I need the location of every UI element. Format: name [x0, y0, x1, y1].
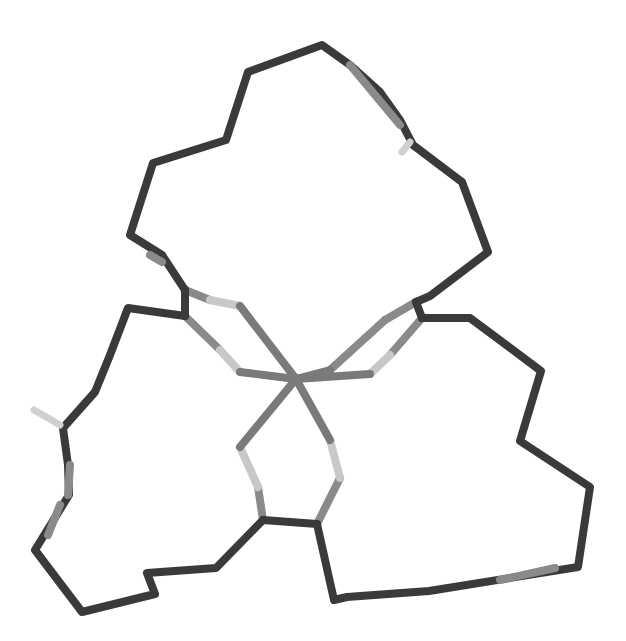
chelate-arm-3-m [296, 374, 370, 379]
metal-center-atom [291, 374, 301, 384]
chelate-arm-5-m [296, 379, 330, 440]
ring-top-heteroatom-1 [350, 65, 400, 125]
molecular-structure-canvas [0, 0, 626, 641]
chelate-arm-5-n [317, 478, 340, 524]
chelate-arm-4-n [258, 487, 263, 520]
chelate-arm-0-s [210, 300, 240, 306]
ring-top-backbone [130, 45, 488, 302]
chelate-arm-3-n [390, 318, 422, 355]
ring-left-backbone [35, 308, 263, 612]
chelate-arm-4-s [240, 447, 258, 487]
chelate-arm-3-s [370, 355, 390, 374]
ring-right-backbone [317, 318, 590, 600]
chelate-arm-4-m [240, 379, 296, 447]
ring-left-pendant-group [34, 410, 60, 425]
molecule-figure [0, 0, 626, 641]
backbone-link-0 [263, 520, 317, 524]
chelate-arm-1-n [185, 316, 220, 350]
ring-left-heteroatom-0 [68, 465, 70, 495]
ring-top-pendant-group [402, 142, 410, 152]
chelate-arm-1-s [220, 350, 240, 372]
ring-left-heteroatom-1 [48, 505, 60, 535]
chelate-arm-5-s [330, 440, 340, 478]
chelate-arm-2-n [385, 302, 416, 320]
backbone-link-2 [416, 302, 422, 318]
chelate-arm-0-m [240, 306, 296, 379]
